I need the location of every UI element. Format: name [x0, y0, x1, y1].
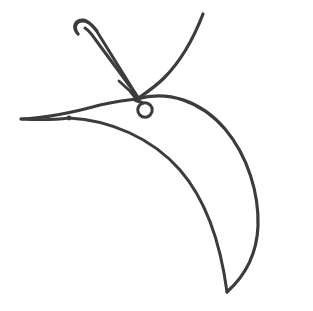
left-tail-upper-path [21, 118, 69, 120]
drawing-canvas [0, 0, 313, 311]
canvas-background [0, 0, 313, 311]
junction-node-dot [134, 96, 141, 103]
line-drawing-artwork [0, 0, 313, 311]
left-tail-node-dot [67, 116, 72, 121]
